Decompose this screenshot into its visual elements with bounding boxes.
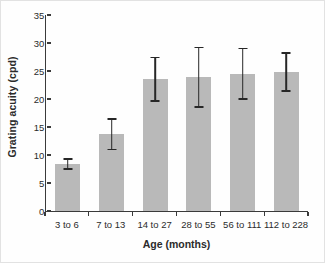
x-axis-tick-label: 112 to 228 [264,219,308,230]
bar-slot [90,15,134,211]
x-axis-category: 7 to 13 [89,212,133,238]
x-axis-category: 14 to 27 [133,212,177,238]
error-bar-cap-top [107,118,116,120]
y-axis-title-text: Grating acuity (cpd) [6,56,18,157]
x-axis-category: 112 to 228 [264,212,308,238]
x-axis-tick-label: 56 to 111 [223,219,261,230]
error-bar [285,53,287,91]
error-bar-cap-bottom [151,100,160,102]
chart-figure: Grating acuity (cpd) 05101520253035 3 to… [0,0,325,263]
plot-area: 05101520253035 [45,15,308,212]
bar-slot [46,15,90,211]
x-axis-category: 56 to 111 [220,212,264,238]
error-bar-cap-bottom [194,106,203,108]
bar[interactable] [55,164,80,211]
x-axis-tick-mark [88,212,89,216]
bar-slot [221,15,265,211]
bar[interactable] [274,72,299,211]
x-axis-tick-mark [176,212,177,216]
y-axis-title: Grating acuity (cpd) [3,1,21,212]
x-axis-tick-label: 28 to 55 [181,219,215,230]
bar-slot [264,15,308,211]
error-bar [111,119,113,149]
x-axis-tick-mark [44,212,45,216]
x-axis-tick-label: 3 to 6 [55,219,79,230]
bar-slot [133,15,177,211]
x-axis-tick-label: 7 to 13 [96,219,125,230]
bar-series [46,15,308,211]
error-bar-cap-top [282,52,291,54]
error-bar [198,47,200,106]
x-axis-ticks: 3 to 67 to 1314 to 2728 to 5556 to 11111… [45,212,308,238]
error-bar-cap-bottom [63,168,72,170]
x-axis-category: 3 to 6 [45,212,89,238]
x-axis-tick-mark [264,212,265,216]
error-bar-cap-bottom [107,149,116,151]
error-bar-cap-top [194,47,203,49]
x-axis-title: Age (months) [45,238,308,250]
x-axis-tick-mark [132,212,133,216]
error-bar-cap-top [151,57,160,59]
x-axis-tick-mark [220,212,221,216]
error-bar-cap-bottom [238,98,247,100]
bar-slot [177,15,221,211]
error-bar [154,58,156,102]
error-bar-cap-top [238,48,247,50]
error-bar-cap-top [63,158,72,160]
x-axis-category: 28 to 55 [176,212,220,238]
error-bar-cap-bottom [282,90,291,92]
x-axis-tick-label: 14 to 27 [137,219,171,230]
x-axis-tick-mark [307,212,308,216]
error-bar [242,49,244,99]
